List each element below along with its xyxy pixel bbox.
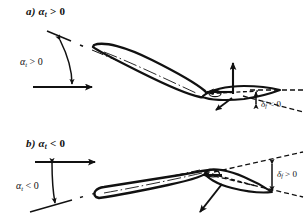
panel-b-delta-relation: > 0: [283, 169, 297, 179]
panel-a-delta-relation: < 0: [267, 99, 281, 109]
panel-a-title-text: a) α: [26, 5, 45, 17]
panel-a-alpha-relation: > 0: [27, 56, 43, 67]
panel-b-title: b) αt < 0: [26, 138, 65, 151]
panel-b-title-relation: < 0: [47, 137, 65, 149]
panel-b-delta-label: δf > 0: [277, 170, 297, 180]
panel-a-airfoil-body: [93, 44, 206, 97]
panel-a-delta-label: δf < 0: [261, 100, 281, 110]
panel-a-title: a) αt > 0: [26, 6, 65, 19]
panel-a-title-relation: > 0: [47, 5, 65, 17]
panel-b-graphics: [30, 152, 303, 212]
panel-b-alpha-label: αt < 0: [16, 181, 39, 192]
airfoil-flap-diagram: [0, 0, 307, 224]
panel-b-resultant-arrow: [200, 184, 222, 212]
panel-a-alpha-arc: [60, 40, 72, 84]
panel-b-alpha-arc: [52, 163, 55, 203]
panel-b-title-text: b) α: [26, 137, 45, 149]
panel-a-alpha-label: αt > 0: [20, 57, 43, 68]
panel-b-alpha-relation: < 0: [23, 180, 39, 191]
